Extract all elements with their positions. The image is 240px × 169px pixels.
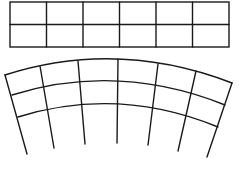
rectangular-grid: [10, 2, 229, 47]
curved-grid-radial-line: [178, 71, 196, 151]
grid-warp-diagram: [0, 0, 240, 169]
curved-grid-radial-line: [5, 75, 27, 154]
curved-grid-radial-line: [207, 83, 232, 157]
curved-grid-radial-line: [148, 64, 158, 145]
curved-grid-radial-line: [78, 61, 85, 144]
curved-grid: [5, 59, 232, 157]
curved-grid-radial-line: [40, 66, 54, 148]
curved-grid-radial-line: [117, 59, 118, 143]
